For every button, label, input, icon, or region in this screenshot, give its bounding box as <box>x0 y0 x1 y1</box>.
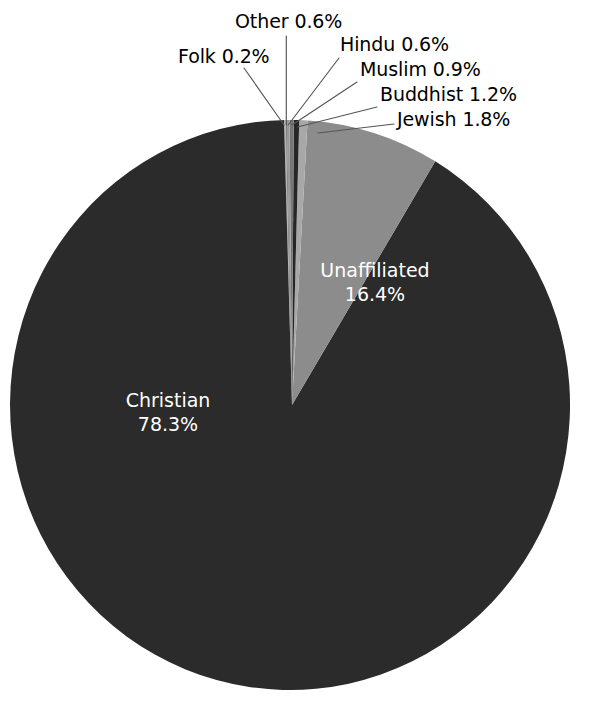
slice-label-muslim: Muslim 0.9% <box>360 60 481 80</box>
leader-line-hindu <box>288 58 339 125</box>
slice-label-unaffiliated: Unaffiliated 16.4% <box>320 258 429 307</box>
slice-label-christian-percent: 78.3% <box>126 412 211 436</box>
slice-label-other: Other 0.6% <box>235 12 342 32</box>
pie-chart-figure: Other 0.6% Folk 0.2% Hindu 0.6% Muslim 0… <box>0 0 598 710</box>
leader-line-muslim <box>292 82 357 125</box>
pie-slices <box>10 120 570 690</box>
slice-label-hindu: Hindu 0.6% <box>340 35 449 55</box>
slice-label-buddhist: Buddhist 1.2% <box>380 85 517 105</box>
slice-label-unaffiliated-name: Unaffiliated <box>320 259 429 281</box>
slice-label-christian: Christian 78.3% <box>126 388 211 437</box>
slice-label-folk: Folk 0.2% <box>178 47 270 67</box>
leader-line-folk <box>244 68 284 125</box>
slice-label-jewish: Jewish 1.8% <box>397 110 510 130</box>
pie-chart-svg <box>0 0 598 710</box>
slice-label-christian-name: Christian <box>126 389 211 411</box>
slice-label-unaffiliated-percent: 16.4% <box>320 282 429 306</box>
